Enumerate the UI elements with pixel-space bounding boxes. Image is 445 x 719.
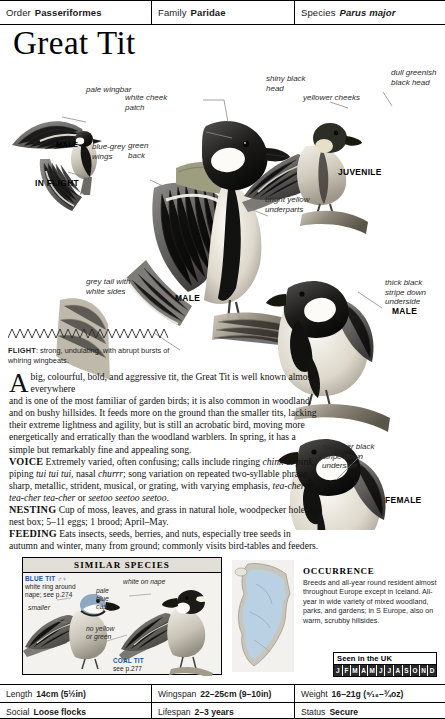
month-cell: M: [368, 665, 377, 676]
similar-blue-tit-name: BLUE TIT ♂♀: [25, 575, 67, 582]
taxonomy-species-value: Parus major: [340, 7, 396, 18]
similar-coal-tit-note: see p.277: [113, 665, 142, 673]
stat-social-value: Loose flocks: [33, 707, 86, 717]
month-cell: J: [385, 665, 394, 676]
plate-caption-male-right: MALE: [392, 306, 417, 316]
stat-status-value: Secure: [329, 707, 358, 717]
month-cell: S: [403, 665, 412, 676]
callout-bright-yellow-underparts: bright yellow underparts: [265, 195, 309, 214]
measurements-row-1: Length 14cm (5½in) Wingspan 22–25cm (9–1…: [0, 685, 445, 703]
similar-species-panel: SIMILAR SPECIES: [22, 557, 222, 675]
month-cell: N: [420, 665, 429, 676]
distribution-map: [232, 560, 294, 672]
stat-length: Length 14cm (5½in): [0, 685, 152, 702]
voice-call-churrr: churrr: [98, 468, 123, 479]
stat-weight: Weight 16–21g (⁹⁄₁₆–¾oz): [295, 685, 445, 702]
field-guide-page: Order Passeriformes Family Paridae Speci…: [0, 0, 445, 719]
stat-social: Social Loose flocks: [0, 703, 152, 719]
page-title: Great Tit: [13, 27, 136, 60]
similar-blue-tit-note: white ring around nape; see p.274: [25, 583, 76, 599]
callout-thick-black-stripe: thick black stripe down underside: [385, 278, 426, 307]
taxonomy-species: Species Parus major: [295, 1, 445, 24]
plate-caption-female: FEMALE: [385, 495, 422, 505]
nesting-label: NESTING: [9, 504, 56, 515]
description-lead-text: big, colourful, bold, and aggressive tit…: [31, 371, 315, 394]
stat-wingspan: Wingspan 22–25cm (9–10in): [152, 685, 295, 702]
species-description: Abig, colourful, bold, and aggressive ti…: [9, 371, 319, 552]
occurrence-text: Breeds and all-year round resident almos…: [303, 578, 437, 625]
flight-note: FLIGHT: strong, undulating, with abrupt …: [8, 346, 183, 366]
similar-blue-tit-callout-cap: pale blue cap: [96, 587, 109, 612]
bird-male-main: [126, 121, 290, 326]
occurrence-title: OCCURRENCE: [303, 566, 437, 576]
similar-coal-tit-callout-nape: white on nape: [123, 578, 165, 586]
voice-text-7: .: [166, 492, 168, 503]
similar-blue-tit-callout-smaller: smaller: [28, 604, 50, 612]
stat-wingspan-value: 22–25cm (9–10in): [200, 689, 271, 699]
taxonomy-bar: Order Passeriformes Family Paridae Speci…: [0, 0, 445, 25]
voice-text-4: , nasal: [71, 468, 98, 479]
month-cell: J: [334, 665, 343, 676]
distribution-map-artwork: [232, 560, 294, 672]
month-cell: A: [360, 665, 369, 676]
plate-caption-juvenile: JUVENILE: [338, 167, 382, 177]
voice-text-1: Extremely varied, often confusing; calls…: [43, 456, 262, 467]
seen-in-uk-label: Seen in the UK: [334, 653, 436, 664]
month-cell: M: [351, 665, 360, 676]
voice-text-2: or: [283, 456, 296, 467]
similar-species-heading: SIMILAR SPECIES: [23, 558, 221, 573]
month-presence-bar: JFMAMJJASOND: [334, 664, 436, 676]
stat-social-label: Social: [6, 707, 29, 717]
callout-shiny-black-head: shiny black head: [266, 74, 306, 93]
drop-cap: A: [9, 372, 31, 394]
taxonomy-family: Family Paridae: [152, 1, 295, 24]
plate-caption-male-flight: MALE: [56, 140, 78, 149]
voice-label: VOICE: [9, 456, 43, 467]
month-cell: J: [377, 665, 386, 676]
stat-status: Status Secure: [295, 703, 445, 719]
callout-green-back: green back: [128, 141, 148, 160]
feeding-section: FEEDING Eats insects, seeds, berries, an…: [9, 528, 319, 552]
flight-zigzag-icon: [8, 328, 168, 340]
voice-text-6: or: [75, 492, 88, 503]
description-lead: Abig, colourful, bold, and aggressive ti…: [9, 371, 319, 395]
stat-lifespan: Lifespan 2–3 years: [152, 703, 295, 719]
callout-blue-grey-wings: blue-grey wings: [92, 142, 125, 161]
callout-dull-greenish-black-head: dull greenish black head: [391, 68, 436, 87]
similar-species-body: BLUE TIT ♂♀ white ring around nape; see …: [23, 573, 221, 676]
callout-narrower-black-stripe: narrower black stripe down underside: [322, 442, 374, 471]
callout-white-cheek-patch: white cheek patch: [125, 93, 167, 112]
taxonomy-order: Order Passeriformes: [0, 1, 152, 24]
voice-song-seetoo: seetoo seetoo seetoo: [88, 492, 166, 503]
stat-length-label: Length: [6, 689, 32, 699]
voice-call-chink: chink: [262, 456, 283, 467]
similar-coal-tit-name: COAL TIT: [113, 657, 144, 664]
voice-call-tui: tui tui tui: [36, 468, 71, 479]
stat-weight-value: 16–21g (⁹⁄₁₆–¾oz): [332, 689, 404, 699]
occurrence-block: OCCURRENCE Breeds and all-year round res…: [303, 566, 437, 625]
measurements-row-2: Social Loose flocks Lifespan 2–3 years S…: [0, 703, 445, 719]
nesting-section: NESTING Cup of moss, leaves, and grass i…: [9, 504, 319, 528]
taxonomy-order-label: Order: [6, 7, 31, 18]
nesting-text: Cup of moss, leaves, and grass in natura…: [9, 504, 318, 527]
taxonomy-species-label: Species: [301, 7, 336, 18]
bird-in-flight: [12, 121, 102, 211]
seen-in-uk-box: Seen in the UK JFMAMJJASOND: [333, 652, 437, 677]
month-cell: A: [394, 665, 403, 676]
perch-branch-juvenile: [300, 211, 368, 234]
similar-coal-tit-callout-colour: no yellow or green: [86, 625, 114, 641]
feeding-label: FEEDING: [9, 528, 57, 539]
month-cell: D: [428, 665, 436, 676]
stat-weight-label: Weight: [301, 689, 328, 699]
callout-grey-tail-white-sides: grey tail with white sides: [86, 277, 130, 296]
flight-label: FLIGHT: [8, 346, 36, 355]
callout-yellower-cheeks: yellower cheeks: [303, 93, 360, 103]
taxonomy-order-value: Passeriformes: [35, 7, 102, 18]
voice-section: VOICE Extremely varied, often confusing;…: [9, 456, 319, 504]
voice-call-pink: pink: [296, 456, 313, 467]
description-paragraph: and is one of the most familiar of garde…: [9, 395, 319, 455]
stat-wingspan-label: Wingspan: [158, 689, 196, 699]
plate-caption-male-main: MALE: [175, 293, 200, 303]
stat-lifespan-value: 2–3 years: [195, 707, 234, 717]
flight-block: FLIGHT: strong, undulating, with abrupt …: [8, 326, 183, 366]
